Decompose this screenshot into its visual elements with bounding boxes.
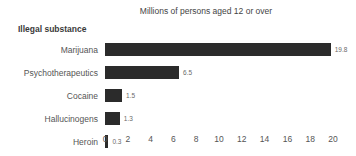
bar-row: Hallucinogens1.3	[0, 110, 356, 130]
bar-row: Marijuana19.8	[0, 41, 356, 61]
bar-value-label: 1.3	[124, 114, 133, 124]
bar-value-label: 6.5	[183, 68, 192, 78]
bar-value-label: 19.8	[335, 45, 348, 55]
bar-chart: Millions of persons aged 12 or over Ille…	[0, 0, 356, 156]
category-label: Marijuana	[0, 44, 98, 57]
x-tick-label: 18	[298, 133, 322, 145]
x-tick-label: 16	[275, 133, 299, 145]
plot-area: Marijuana19.8Psychotherapeutics6.5Cocain…	[0, 41, 356, 131]
category-label: Hallucinogens	[0, 113, 98, 126]
category-axis-title: Illegal substance	[18, 24, 87, 35]
bar-value-label: 1.5	[126, 91, 135, 101]
x-tick-label: 0	[93, 133, 117, 145]
category-label: Psychotherapeutics	[0, 67, 98, 80]
bar[interactable]	[105, 66, 179, 79]
x-tick-label: 6	[161, 133, 185, 145]
x-tick-label: 4	[139, 133, 163, 145]
bar-row: Cocaine1.5	[0, 87, 356, 107]
x-tick-label: 10	[207, 133, 231, 145]
x-tick-label: 12	[230, 133, 254, 145]
category-label: Cocaine	[0, 90, 98, 103]
chart-title: Millions of persons aged 12 or over	[78, 6, 334, 17]
x-axis: 02468101214161820	[0, 133, 356, 147]
x-tick-label: 20	[321, 133, 345, 145]
bar-row: Psychotherapeutics6.5	[0, 64, 356, 84]
x-tick-label: 8	[184, 133, 208, 145]
x-tick-label: 14	[253, 133, 277, 145]
bar[interactable]	[105, 89, 122, 102]
bar[interactable]	[105, 112, 120, 125]
x-tick-label: 2	[116, 133, 140, 145]
bar[interactable]	[105, 43, 331, 56]
